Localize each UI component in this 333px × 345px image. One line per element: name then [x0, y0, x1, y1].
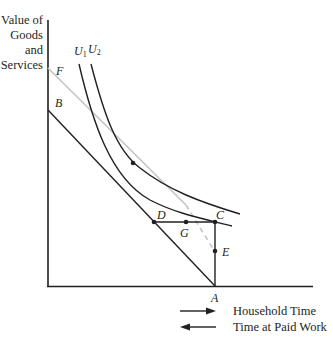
label-u1-sub: 1 [83, 50, 87, 59]
y-axis-label-line: and [0, 43, 43, 58]
legend-label-household-time: Household Time [233, 304, 316, 318]
label-point-b: B [55, 97, 62, 109]
label-point-d: D [157, 209, 166, 221]
label-point-c: C [216, 209, 224, 221]
point-e [213, 249, 218, 254]
y-axis-label-line: Value of [0, 13, 43, 28]
indifference-curve-u2 [91, 64, 240, 214]
label-u1: U1 [74, 45, 87, 61]
label-point-g: G [180, 227, 189, 239]
label-point-e: E [222, 246, 229, 258]
right-arrow-icon [180, 306, 216, 316]
label-point-f: F [56, 65, 63, 77]
diagram-canvas [0, 0, 333, 345]
label-point-a: A [211, 292, 218, 304]
legend-label-paid-work-time: Time at Paid Work [233, 320, 327, 334]
budget-line-f-dashed [186, 205, 215, 252]
point-g [184, 220, 189, 225]
point-tangency [131, 161, 136, 166]
legend-paid-work-time: Time at Paid Work [180, 320, 333, 334]
y-axis-label: Value of Goods and Services [0, 13, 43, 73]
legend-household-time: Household Time [180, 304, 333, 318]
y-axis-label-line: Goods [0, 28, 43, 43]
point-d [152, 220, 157, 225]
indifference-curve-u1 [79, 64, 232, 226]
label-u2: U2 [88, 43, 101, 59]
label-u2-base: U [88, 42, 97, 56]
y-axis-label-line: Services [0, 58, 43, 73]
budget-line-b [48, 110, 215, 286]
label-u1-base: U [74, 44, 83, 58]
label-u2-sub: 2 [97, 48, 101, 57]
left-arrow-icon [180, 322, 216, 332]
